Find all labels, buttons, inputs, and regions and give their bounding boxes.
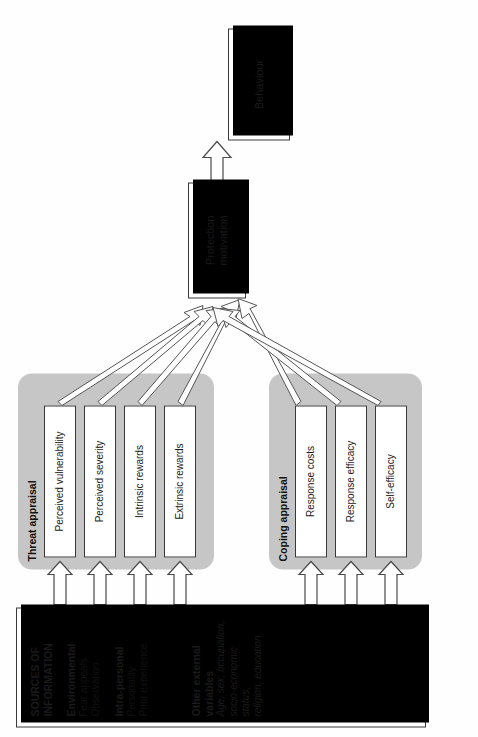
other-heading-line1: Other external bbox=[190, 645, 202, 716]
behaviour-box[interactable]: Behaviour bbox=[228, 28, 290, 140]
factor-label: Perceived severity bbox=[94, 440, 106, 522]
arrow-protection-motivation-to-behaviour bbox=[203, 141, 231, 180]
other-item-line3: religion, education bbox=[252, 635, 263, 716]
diagram-canvas: Threat appraisal Coping appraisal Percei… bbox=[0, 0, 478, 737]
pm-label-line2: motivation bbox=[217, 215, 229, 265]
sources-other-variables-items: Age, sex, occupation, socio-economic sta… bbox=[215, 618, 264, 716]
sources-environmental-item-1: Fear appeals bbox=[78, 618, 90, 716]
sources-other-variables-heading: Other external variables bbox=[190, 618, 215, 716]
other-heading-line2: variables bbox=[203, 670, 215, 716]
sources-environmental-heading: Environmental bbox=[65, 618, 78, 716]
pm-label-line1: Protection bbox=[204, 215, 216, 265]
factor-box-intrinsic-rewards[interactable]: Intrinsic rewards bbox=[124, 405, 156, 557]
factor-label: Intrinsic rewards bbox=[134, 445, 146, 518]
factor-box-extrinsic-rewards[interactable]: Extrinsic rewards bbox=[164, 405, 196, 557]
factor-label: Extrinsic rewards bbox=[174, 443, 186, 519]
sources-intrapersonal-item-1: Personality bbox=[126, 618, 138, 716]
factor-box-response-efficacy[interactable]: Response efficacy bbox=[335, 405, 367, 557]
threat-appraisal-label: Threat appraisal bbox=[26, 480, 38, 561]
factor-box-perceived-severity[interactable]: Perceived severity bbox=[84, 405, 116, 557]
factor-label: Response costs bbox=[305, 445, 317, 516]
sources-heading-line2: INFORMATION bbox=[42, 643, 54, 716]
protection-motivation-label: Protection motivation bbox=[204, 215, 230, 265]
factor-box-perceived-vulnerability[interactable]: Perceived vulnerability bbox=[44, 405, 76, 557]
sources-intrapersonal-heading: Intra-personal bbox=[113, 618, 126, 716]
factor-box-response-costs[interactable]: Response costs bbox=[295, 405, 327, 557]
other-item-line1: Age, sex, occupation, bbox=[215, 620, 226, 716]
sources-heading: SOURCES OF INFORMATION bbox=[29, 618, 54, 716]
behaviour-label: Behaviour bbox=[253, 59, 265, 109]
sources-of-information-box[interactable]: SOURCES OF INFORMATION Environmental Fea… bbox=[16, 607, 426, 727]
sources-intrapersonal-item-2: Prior experience bbox=[138, 618, 150, 716]
protection-motivation-box[interactable]: Protection motivation bbox=[188, 182, 246, 298]
sources-heading-line1: SOURCES OF bbox=[29, 647, 41, 716]
coping-appraisal-label: Coping appraisal bbox=[277, 476, 289, 561]
factor-label: Perceived vulnerability bbox=[54, 431, 66, 531]
other-item-line2: socio-economic status, bbox=[228, 647, 251, 716]
factor-box-self-efficacy[interactable]: Self-efficacy bbox=[375, 405, 407, 557]
factor-label: Self-efficacy bbox=[385, 454, 397, 508]
factor-label: Response efficacy bbox=[345, 440, 357, 522]
sources-environmental-item-2: Observation bbox=[90, 618, 102, 716]
